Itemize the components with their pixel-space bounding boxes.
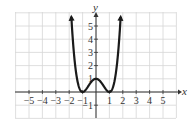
y-tick-label: 2: [88, 60, 93, 71]
x-tick-label: 4: [147, 95, 152, 106]
x-tick-label: −4: [37, 95, 48, 106]
x-tick-label: −2: [64, 95, 75, 106]
x-tick-label: 5: [161, 95, 166, 106]
x-tick-label: 2: [120, 95, 125, 106]
y-axis-label: y: [92, 1, 98, 13]
x-tick-label: −3: [50, 95, 61, 106]
y-tick-label: −1: [82, 100, 93, 111]
y-tick-label: 5: [88, 21, 93, 32]
y-tick-label: 4: [88, 34, 93, 45]
x-axis-label: x: [181, 85, 187, 97]
function-graph: −5−4−3−2−112345−112345 x y: [0, 0, 192, 134]
y-tick-label: 3: [88, 47, 93, 58]
x-tick-label: −5: [24, 95, 35, 106]
x-tick-label: 3: [134, 95, 139, 106]
x-tick-label: 1: [107, 95, 112, 106]
